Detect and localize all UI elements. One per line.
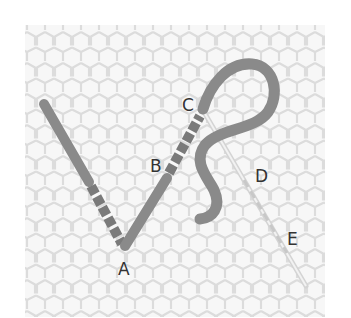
label-b: B [150, 156, 162, 176]
label-d: D [255, 166, 268, 186]
label-a: A [118, 259, 130, 279]
label-c: C [182, 95, 194, 115]
stitch-diagram: A B C D E [0, 0, 351, 318]
label-e: E [287, 229, 298, 249]
